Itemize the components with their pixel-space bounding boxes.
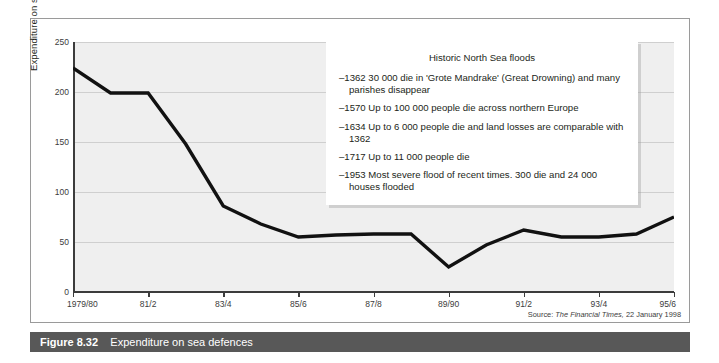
x-tick-label-1979/80: 1979/80 — [67, 299, 98, 309]
figure-number: Figure 8.32 — [40, 336, 98, 348]
info-box-title: Historic North Sea floods — [339, 52, 625, 63]
source-note: Source: The Financial Times, 22 January … — [528, 310, 681, 319]
x-tick-label-91/2: 91/2 — [515, 299, 532, 309]
y-axis-tick-labels: 050100150200250 — [31, 42, 69, 292]
x-tick-87/8 — [374, 292, 375, 297]
figure-caption-text: Figure 8.32 Expenditure on sea defences — [40, 336, 253, 348]
info-box-item: –1634 Up to 6 000 people die and land lo… — [339, 121, 625, 145]
x-tick-label-87/8: 87/8 — [365, 299, 382, 309]
chart-plot-wrapper: Expenditure on sea defences (£m) 0501001… — [31, 19, 689, 322]
x-tick-label-89/90: 89/90 — [438, 299, 459, 309]
y-tick-label-250: 250 — [55, 37, 69, 47]
x-tick-label-95/6: 95/6 — [659, 299, 676, 309]
source-date: 22 January 1998 — [626, 310, 681, 319]
x-tick-85/6 — [298, 292, 299, 297]
y-tick-label-0: 0 — [64, 287, 69, 297]
historic-floods-info-box: Historic North Sea floods –1362 30 000 d… — [326, 41, 638, 205]
y-tick-label-150: 150 — [55, 137, 69, 147]
x-tick-label-93/4: 93/4 — [591, 299, 608, 309]
x-tick-label-81/2: 81/2 — [140, 299, 157, 309]
x-tick-83/4 — [223, 292, 224, 297]
x-tick-81/2 — [148, 292, 149, 297]
x-tick-95/6 — [674, 292, 675, 297]
x-tick-93/4 — [599, 292, 600, 297]
figure-caption-bar: Figure 8.32 Expenditure on sea defences — [30, 332, 690, 352]
x-tick-89/90 — [449, 292, 450, 297]
figure-title: Expenditure on sea defences — [110, 336, 253, 348]
x-tick-label-83/4: 83/4 — [215, 299, 232, 309]
y-tick-label-200: 200 — [55, 87, 69, 97]
info-box-item: –1717 Up to 11 000 people die — [339, 151, 625, 163]
info-box-item: –1953 Most severe flood of recent times.… — [339, 169, 625, 193]
source-publication: The Financial Times, — [555, 310, 624, 319]
x-tick-label-85/6: 85/6 — [290, 299, 307, 309]
info-box-item-list: –1362 30 000 die in 'Grote Mandrake' (Gr… — [339, 72, 625, 194]
y-tick-label-100: 100 — [55, 187, 69, 197]
info-box-item: –1362 30 000 die in 'Grote Mandrake' (Gr… — [339, 72, 625, 96]
source-prefix: Source: — [528, 310, 553, 319]
x-tick-1979/80 — [73, 292, 74, 297]
x-tick-91/2 — [524, 292, 525, 297]
info-box-item: –1570 Up to 100 000 people die across no… — [339, 102, 625, 114]
y-tick-label-50: 50 — [60, 237, 69, 247]
figure-frame: Expenditure on sea defences (£m) 0501001… — [30, 18, 690, 323]
